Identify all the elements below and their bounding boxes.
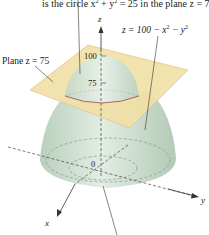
y-axis [168, 189, 195, 196]
caption-text: is the circle x2 + y2 = 25 in the plane … [42, 0, 209, 9]
tick-label-100: 100 [84, 51, 97, 61]
z-axis-label: z [97, 14, 102, 24]
y-axis-arrow-icon [191, 193, 199, 199]
z-axis-arrow-icon [99, 26, 104, 33]
plane-label: Plane z = 75 [2, 56, 50, 66]
base-leader-line [103, 186, 117, 235]
x-axis [60, 184, 75, 212]
tick-label-75: 75 [88, 78, 97, 88]
origin-label: 0 [91, 159, 95, 169]
paraboloid-diagram: is the circle x2 + y2 = 25 in the plane … [0, 0, 209, 235]
y-axis-label: y [200, 195, 205, 205]
x-axis-label: x [44, 218, 49, 228]
surface-equation-label: z = 100 − x2 − y2 [121, 24, 188, 35]
